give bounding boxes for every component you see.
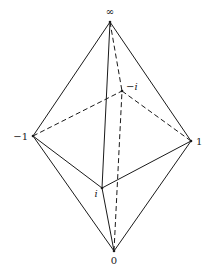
edge-negi-pos1-hidden: [122, 91, 191, 141]
vertex-label-inf: ∞: [106, 6, 114, 17]
edge-neg1-posi: [33, 136, 102, 188]
edge-inf-posi: [102, 22, 110, 188]
vertex-posi: [101, 187, 104, 190]
vertex-negi: [121, 90, 124, 93]
edge-zero-posi: [102, 188, 114, 251]
edge-zero-neg1: [33, 136, 114, 251]
vertex-label-posi: i: [94, 188, 97, 199]
vertex-label-zero: 0: [111, 255, 117, 266]
vertex-label-neg1: −1: [13, 131, 28, 142]
vertex-label-negi: −i: [126, 81, 138, 92]
edge-posi-pos1: [102, 141, 191, 188]
vertex-neg1: [32, 135, 35, 138]
edge-zero-pos1: [114, 141, 191, 251]
edge-inf-negi-hidden: [110, 22, 122, 91]
edge-zero-negi-hidden: [114, 91, 122, 251]
edges-group: [33, 22, 191, 251]
edge-inf-pos1: [110, 22, 191, 141]
edge-neg1-negi-hidden: [33, 91, 122, 136]
vertex-inf: [109, 21, 112, 24]
labels-group: ∞0−11−ii: [13, 6, 202, 266]
vertex-pos1: [190, 140, 193, 143]
vertex-label-pos1: 1: [196, 136, 202, 147]
vertex-zero: [113, 250, 116, 253]
octahedron-diagram: ∞0−11−ii: [0, 0, 208, 273]
edge-inf-neg1: [33, 22, 110, 136]
